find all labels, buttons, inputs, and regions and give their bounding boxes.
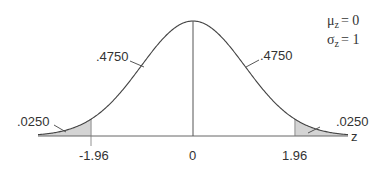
svg-text:μz= 0: μz= 0 — [327, 13, 359, 30]
leader-right-center — [246, 60, 259, 67]
sd-parameter: σz= 1 — [327, 32, 359, 49]
mean-parameter: μz= 0 — [327, 13, 359, 30]
leader-left-tail — [54, 125, 66, 132]
tick-label-zero: 0 — [189, 148, 196, 163]
right-center-area-label: .4750 — [260, 48, 293, 63]
tick-label-pos: 1.96 — [282, 148, 307, 163]
svg-text:σz= 1: σz= 1 — [327, 32, 359, 49]
left-center-area-label: .4750 — [96, 49, 129, 64]
left-tail-area-label: .0250 — [17, 114, 50, 129]
axis-label: z — [351, 129, 358, 144]
leader-left-center — [130, 61, 144, 67]
tick-label-neg: -1.96 — [79, 148, 109, 163]
right-tail-area-label: .0250 — [336, 114, 369, 129]
normal-curve-figure: .0250 .4750 .4750 .0250 z -1.96 0 1.96 μ… — [0, 0, 381, 172]
